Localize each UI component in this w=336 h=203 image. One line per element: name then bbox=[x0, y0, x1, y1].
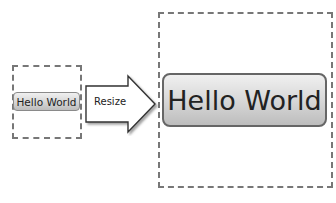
source-hello-world-button[interactable]: Hello World bbox=[13, 92, 80, 111]
resize-label: Resize bbox=[94, 96, 126, 107]
source-button-label: Hello World bbox=[16, 96, 76, 108]
target-hello-world-button[interactable]: Hello World bbox=[162, 73, 327, 127]
target-button-label: Hello World bbox=[167, 85, 321, 116]
